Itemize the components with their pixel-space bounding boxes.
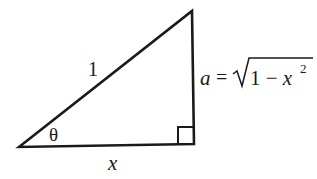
exponent: 2 xyxy=(300,61,307,76)
opposite-label-lhs: a xyxy=(200,66,211,90)
radicand-text: 1 − x xyxy=(250,66,293,90)
right-angle-marker xyxy=(178,127,194,144)
hypotenuse-label: 1 xyxy=(88,58,98,80)
opposite-label: a = 1 − x 2 xyxy=(200,58,313,90)
triangle-diagram: 1 θ x a = 1 − x 2 xyxy=(0,0,317,179)
angle-label: θ xyxy=(49,124,58,145)
equals-sign: = xyxy=(216,66,227,88)
triangle xyxy=(19,11,194,147)
adjacent-label: x xyxy=(107,151,118,175)
